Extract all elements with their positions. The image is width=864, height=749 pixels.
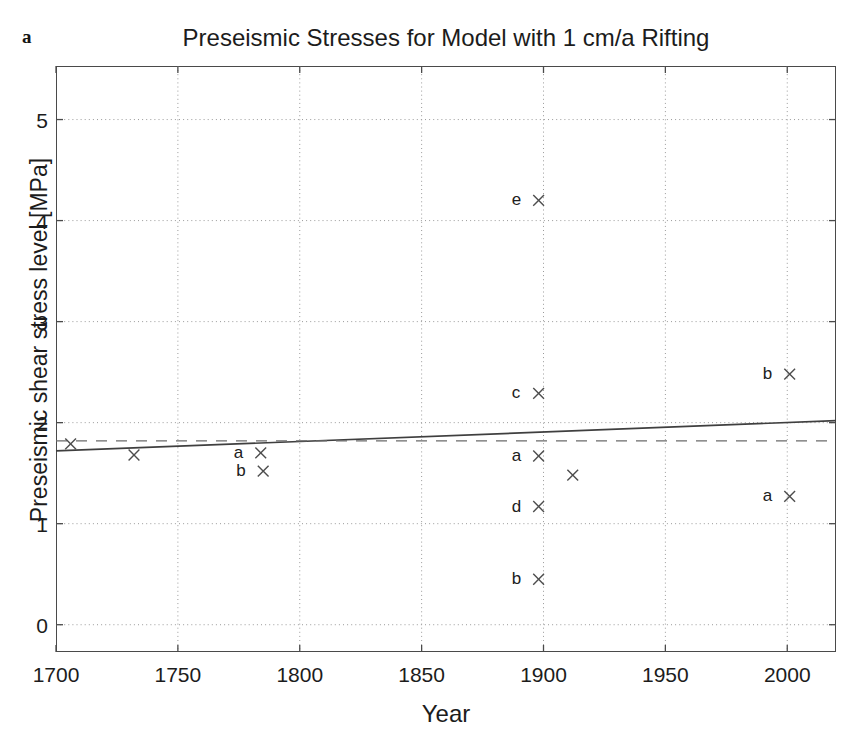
x-tick-label: 1800 xyxy=(255,664,345,685)
x-tick-label: 2000 xyxy=(742,664,832,685)
data-point-label: b xyxy=(763,365,772,382)
data-point-label: e xyxy=(512,191,521,208)
y-tick-label: 2 xyxy=(4,413,48,434)
chart-title: Preseismic Stresses for Model with 1 cm/… xyxy=(56,24,836,52)
y-axis-label: Preseismic shear stress level [MPa] xyxy=(26,60,53,620)
figure-container: a Preseismic Stresses for Model with 1 c… xyxy=(0,0,864,749)
data-point-label: c xyxy=(512,384,521,401)
y-tick-label: 4 xyxy=(4,211,48,232)
data-point-label: b xyxy=(236,462,245,479)
x-tick-label: 1850 xyxy=(377,664,467,685)
panel-label: a xyxy=(22,26,32,48)
x-tick-label: 1950 xyxy=(620,664,710,685)
data-point-label: b xyxy=(512,570,521,587)
plot-frame xyxy=(56,66,836,652)
x-tick-label: 1700 xyxy=(11,664,101,685)
data-point-label: a xyxy=(234,444,243,461)
x-tick-label: 1750 xyxy=(133,664,223,685)
y-tick-label: 1 xyxy=(4,514,48,535)
y-tick-label: 3 xyxy=(4,312,48,333)
x-axis-label: Year xyxy=(56,700,836,728)
data-point-label: a xyxy=(763,487,772,504)
x-tick-label: 1900 xyxy=(499,664,589,685)
y-tick-label: 5 xyxy=(4,110,48,131)
data-point-label: a xyxy=(512,447,521,464)
data-point-label: d xyxy=(512,498,521,515)
y-tick-label: 0 xyxy=(4,615,48,636)
